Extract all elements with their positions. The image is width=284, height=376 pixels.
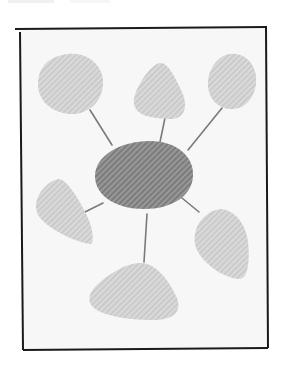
node-top-left <box>38 54 103 114</box>
hub-spoke-diagram <box>0 0 284 376</box>
